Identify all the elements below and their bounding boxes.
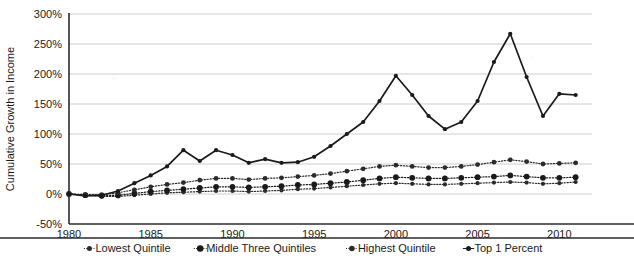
data-point [246,185,252,191]
data-point [426,114,430,118]
y-tick-label: 100% [34,128,62,140]
data-point [393,163,398,168]
data-point [442,176,448,182]
data-point [525,75,529,79]
legend-marker [87,246,92,251]
legend-item-label[interactable]: Top 1 Percent [475,242,543,254]
data-point [312,173,317,178]
data-point [508,180,512,184]
data-point [573,160,578,165]
series-lowest-quintile [67,180,578,199]
data-point [67,192,71,196]
data-point [491,174,497,180]
data-point [393,174,399,180]
data-point [443,127,447,131]
data-point [312,155,316,159]
data-point [443,165,448,170]
data-point [540,175,546,181]
data-point [459,120,463,124]
data-point [524,159,529,164]
data-point [262,184,268,190]
legend-marker [349,246,355,252]
data-point [344,179,350,185]
data-point [426,182,430,186]
data-point [475,181,479,185]
data-point [149,173,153,177]
data-point [492,60,496,64]
data-series-layer [66,32,578,199]
data-point [557,181,561,185]
data-point [295,182,301,188]
data-point [459,164,464,169]
data-point [573,174,579,180]
data-point [443,182,447,186]
data-point [198,159,202,163]
data-point [165,182,170,187]
data-point [410,93,414,97]
data-point [524,174,530,180]
y-tick-label: 200% [34,68,62,80]
data-point [213,184,219,190]
data-point [574,93,578,97]
data-point [263,157,267,161]
data-point [132,181,136,185]
data-point [230,176,235,181]
data-point [344,169,349,174]
data-point [328,144,332,148]
legend-marker [466,246,471,251]
data-point [181,148,185,152]
data-point [377,182,381,186]
data-point [328,171,333,176]
series-top-1-percent [67,32,578,198]
data-point [541,162,546,167]
data-point [475,162,480,167]
data-point [409,175,415,181]
data-point [459,182,463,186]
data-point [426,176,432,182]
data-point [556,175,562,181]
data-point [247,161,251,165]
data-point [426,165,431,170]
legend-item-label[interactable]: Lowest Quintile [95,242,170,254]
data-point [197,178,202,183]
data-point [394,181,398,185]
data-point [181,186,187,192]
legend-marker [197,245,204,252]
data-point [377,176,383,182]
data-point [410,164,415,169]
data-point [541,114,545,118]
data-point [458,175,464,181]
data-point [361,183,365,187]
data-point [492,160,497,165]
legend-item-label[interactable]: Middle Three Quintiles [206,242,316,254]
data-point [116,189,120,193]
data-point [83,194,87,198]
data-point [377,164,382,169]
data-point [100,193,104,197]
data-point [360,177,366,183]
data-point [475,174,481,180]
data-point [214,148,218,152]
y-tick-label: 250% [34,38,62,50]
data-point [279,183,285,189]
y-tick-label: 0% [46,188,62,200]
chart-canvas: 300%250%200%150%100%50%0%-50% 1980198519… [0,0,634,261]
y-tick-label: 150% [34,98,62,110]
y-tick-label: 50% [40,158,62,170]
data-point [279,161,283,165]
data-point [508,32,512,36]
series-highest-quintile [67,157,578,197]
data-point [197,185,203,191]
data-point [164,188,170,194]
data-point [295,174,300,179]
data-point [311,182,317,188]
income-growth-chart: 300%250%200%150%100%50%0%-50% 1980198519… [0,0,634,261]
data-point [574,180,578,184]
data-point [492,181,496,185]
legend-item-label[interactable]: Highest Quintile [358,242,436,254]
data-point [507,173,513,179]
data-point [165,164,169,168]
data-point [263,176,268,181]
chart-legend: Lowest QuintileMiddle Three QuintilesHig… [84,242,543,254]
data-point [132,187,137,192]
